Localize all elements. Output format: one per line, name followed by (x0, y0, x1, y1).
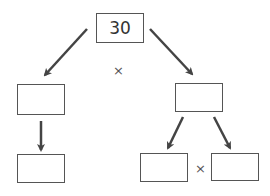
bottom-times-sign: × (195, 162, 206, 175)
arrow-root-to-right (150, 29, 192, 74)
arrow-right-to-bottom-right (214, 117, 230, 148)
left-bottom-box[interactable] (17, 154, 65, 183)
root-value: 30 (109, 18, 131, 38)
bottom-right-box[interactable] (211, 153, 259, 181)
right-mid-box[interactable] (175, 83, 223, 112)
top-times-sign: × (113, 64, 124, 77)
left-mid-box[interactable] (17, 84, 65, 115)
arrow-right-to-bottom-middle (168, 117, 183, 148)
bottom-middle-box[interactable] (140, 153, 188, 182)
arrow-root-to-left (45, 29, 87, 75)
root-box: 30 (96, 13, 144, 43)
